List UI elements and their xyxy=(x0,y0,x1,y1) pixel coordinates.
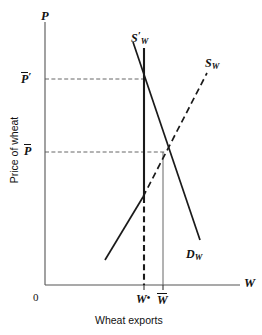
price-high-prime: ′ xyxy=(28,70,31,82)
x-axis-symbol-text: W xyxy=(244,276,255,290)
y-axis-caption: Price of wheat xyxy=(8,100,20,200)
qty-star-base: W xyxy=(136,292,147,306)
restricted-supply-sub: W xyxy=(141,36,149,46)
supply-label: SW xyxy=(205,57,219,70)
x-axis-caption-text: Wheat exports xyxy=(95,314,163,326)
x-axis-symbol: W xyxy=(244,277,255,290)
origin-label-text: 0 xyxy=(33,291,39,303)
price-label: P xyxy=(24,144,31,157)
supply-curve-sw-solid xyxy=(105,197,143,260)
qty-bar-base: W xyxy=(157,293,168,306)
price-high-label: P′ xyxy=(21,71,31,85)
wheat-export-supply-demand-figure: P W 0 P′ P S′W SW DW W• W Wheat exports … xyxy=(0,0,262,335)
y-axis-symbol: P xyxy=(41,10,49,23)
price-high-base: P xyxy=(21,72,28,85)
supply-curve-sw-dashed xyxy=(143,73,207,197)
qty-star-mark: • xyxy=(147,292,151,303)
demand-label: DW xyxy=(186,248,202,261)
y-axis-symbol-text: P xyxy=(41,9,49,23)
qty-bar-label: W xyxy=(157,293,168,306)
supply-base: S xyxy=(205,56,212,70)
restricted-supply-label: S′W xyxy=(131,30,148,46)
price-base: P xyxy=(24,144,31,157)
plot-area xyxy=(0,0,262,335)
supply-sub: W xyxy=(212,61,220,71)
x-axis-caption: Wheat exports xyxy=(95,315,163,326)
demand-sub: W xyxy=(195,252,203,262)
restricted-supply-base: S xyxy=(131,31,138,45)
qty-star-label: W• xyxy=(136,293,150,305)
demand-base: D xyxy=(186,247,195,261)
y-axis-caption-text: Price of wheat xyxy=(8,117,20,184)
origin-label: 0 xyxy=(33,292,39,303)
